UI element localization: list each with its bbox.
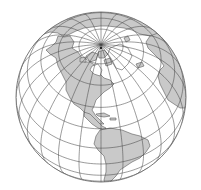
globe-map [0, 0, 201, 190]
hispaniola [110, 118, 116, 120]
north-pole-marker [100, 47, 102, 49]
orthographic-globe [0, 0, 201, 190]
